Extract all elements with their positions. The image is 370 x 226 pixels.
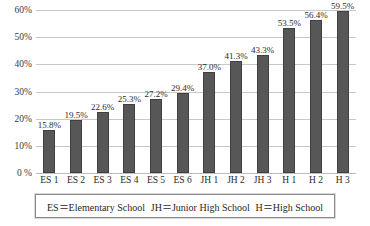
- bar: 27.2%ES 5: [150, 99, 162, 173]
- x-axis-tick-label: ES 2: [67, 175, 85, 185]
- bar: 43.3%JH 3: [257, 55, 269, 173]
- gridline: [36, 37, 356, 38]
- bar: 15.8%ES 1: [43, 130, 55, 173]
- x-axis-tick-label: ES 5: [147, 175, 165, 185]
- legend-entry: JH＝Junior High School: [151, 199, 250, 214]
- x-axis-tick-label: ES 4: [120, 175, 138, 185]
- bar-value-label: 43.3%: [251, 45, 274, 55]
- gridline: [36, 92, 356, 93]
- bar-value-label: 41.3%: [224, 51, 247, 61]
- bar-value-label: 29.4%: [171, 83, 194, 93]
- gridline: [36, 64, 356, 65]
- bar-value-label: 27.2%: [144, 89, 167, 99]
- y-axis-tick-label: 20%: [15, 114, 32, 124]
- x-axis-tick-label: ES 1: [40, 175, 58, 185]
- bar: 37.0%JH 1: [203, 72, 215, 173]
- legend-box: ES＝Elementary SchoolJH＝Junior High Schoo…: [35, 194, 335, 218]
- y-axis-tick-label: 30%: [15, 87, 32, 97]
- bar-value-label: 37.0%: [198, 62, 221, 72]
- legend-entry: ES＝Elementary School: [47, 199, 145, 214]
- bar: 29.4%ES 6: [177, 93, 189, 173]
- bar-value-label: 59.5%: [331, 1, 354, 11]
- x-axis-tick-label: JH 2: [227, 175, 245, 185]
- bar-value-label: 53.5%: [278, 18, 301, 28]
- y-axis-tick-label: 10%: [15, 141, 32, 151]
- x-axis-tick-label: JH 1: [200, 175, 218, 185]
- bar: 22.6%ES 3: [97, 112, 109, 173]
- chart-container: 0 %10%20%30%40%50%60% 15.8%ES 119.5%ES 2…: [0, 0, 370, 226]
- bar: 59.5%H 3: [337, 11, 349, 173]
- x-axis-tick-label: ES 6: [174, 175, 192, 185]
- y-axis-tick-label: 0 %: [17, 168, 32, 178]
- y-axis-tick-label: 40%: [15, 59, 32, 69]
- bar-value-label: 56.4%: [304, 10, 327, 20]
- bar-value-label: 22.6%: [91, 102, 114, 112]
- gridline: [36, 173, 356, 174]
- x-axis-tick-label: ES 3: [94, 175, 112, 185]
- bar-value-label: 15.8%: [38, 120, 61, 130]
- y-axis-tick-label: 50%: [15, 32, 32, 42]
- bar: 25.3%ES 4: [123, 104, 135, 173]
- x-axis-tick-label: H 3: [336, 175, 350, 185]
- y-axis-tick-label: 60%: [15, 5, 32, 15]
- legend-entry: H＝High School: [256, 199, 324, 214]
- x-axis-tick-label: H 1: [282, 175, 296, 185]
- x-axis-tick-label: H 2: [309, 175, 323, 185]
- bar: 41.3%JH 2: [230, 61, 242, 173]
- bar: 56.4%H 2: [310, 20, 322, 173]
- x-axis-tick-label: JH 3: [254, 175, 272, 185]
- bar: 53.5%H 1: [283, 28, 295, 173]
- plot-area: 0 %10%20%30%40%50%60% 15.8%ES 119.5%ES 2…: [36, 10, 356, 173]
- gridline: [36, 146, 356, 147]
- bar-value-label: 25.3%: [118, 94, 141, 104]
- bar: 19.5%ES 2: [70, 120, 82, 173]
- bar-value-label: 19.5%: [64, 110, 87, 120]
